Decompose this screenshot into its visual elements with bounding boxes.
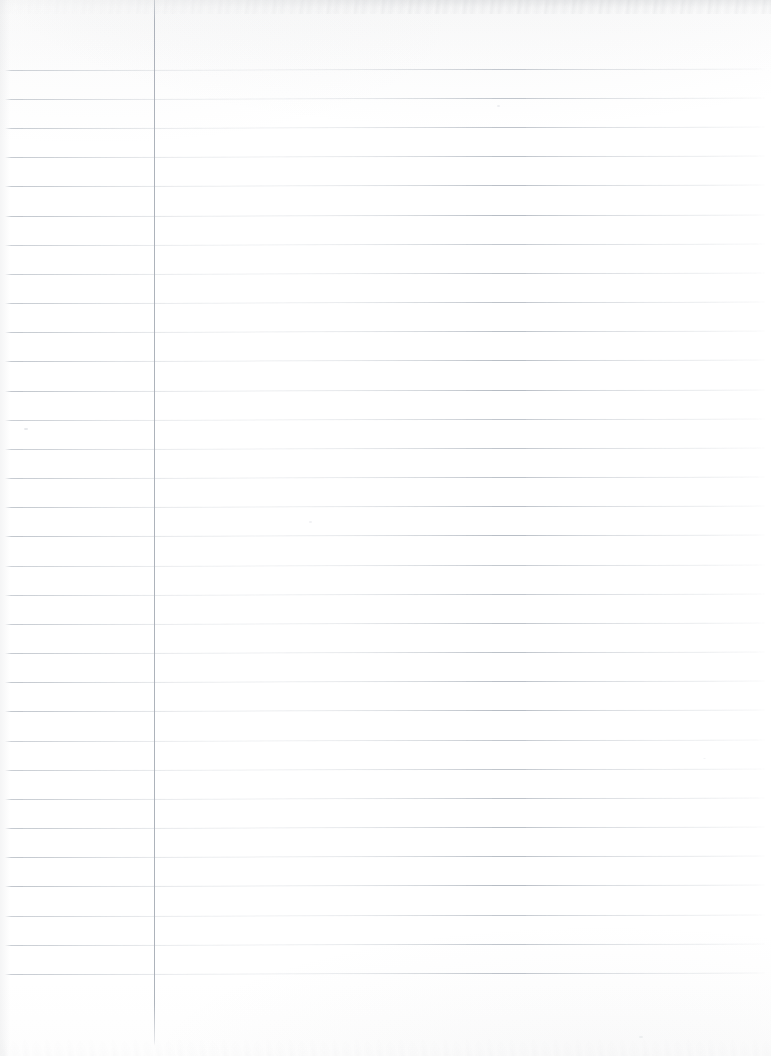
- scan-edge-shading-left: [0, 0, 10, 1056]
- scan-speck: [24, 428, 28, 430]
- scan-noise-band-bottom: [0, 1034, 771, 1056]
- writing-area[interactable]: [155, 56, 767, 990]
- scanned-paper-page: [0, 0, 771, 1056]
- scan-speck: [639, 1036, 643, 1038]
- scan-noise-band-top: [0, 0, 771, 14]
